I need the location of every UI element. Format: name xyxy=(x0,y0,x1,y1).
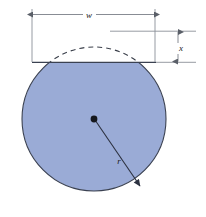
figure-container: w x r xyxy=(0,0,206,217)
radius-label: r xyxy=(117,156,121,166)
depth-label: x xyxy=(178,43,183,53)
width-label: w xyxy=(86,10,92,20)
circular-tank-diagram: w x r xyxy=(0,0,206,217)
center-dot xyxy=(91,116,98,123)
